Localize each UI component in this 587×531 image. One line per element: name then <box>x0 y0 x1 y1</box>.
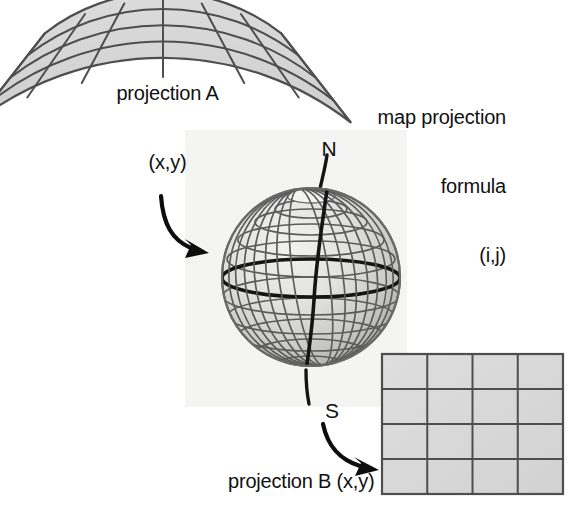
label-map-projection-formula: map projection formula (i,j) <box>321 60 506 313</box>
south-pole-label: S <box>325 399 339 422</box>
projection-b-grid <box>382 354 563 494</box>
label-formula-line1: map projection <box>321 106 506 129</box>
label-formula-line3: (i,j) <box>321 244 506 267</box>
label-formula-line2: formula <box>321 175 506 198</box>
polar-axis-south <box>306 370 309 404</box>
label-projection-a-line1: projection A <box>105 82 230 105</box>
label-projection-a: projection A (x,y) <box>105 36 230 220</box>
diagram-canvas: N S projection A (x,y) map projection fo… <box>0 0 587 531</box>
arrow-globe-to-grid <box>323 424 379 476</box>
label-projection-b: projection B (x,y) <box>228 470 374 493</box>
label-projection-a-line2: (x,y) <box>105 151 230 174</box>
